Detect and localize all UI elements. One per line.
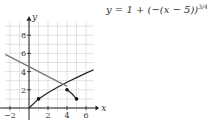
y-tick-label: 8 [21,31,26,40]
data-point [75,97,79,101]
equation-text: y = 1 + (−(x − 5)) [106,4,198,15]
y-tick-label: 4 [21,68,26,77]
data-point [37,97,41,101]
x-axis-label: x [101,103,106,113]
x-tick-label: 2 [45,111,50,120]
y-tick-label: 2 [21,86,26,95]
x-tick-label: 4 [64,111,69,120]
y-tick-label: 6 [21,49,26,58]
x-tick-label: 6 [83,111,88,120]
chart: −22462468xy [0,0,207,120]
y-axis-label: y [31,12,38,22]
x-axis-arrow-icon [96,106,100,111]
data-point [65,88,69,92]
x-tick-label: −2 [4,111,16,120]
y-axis-arrow-icon [27,16,32,21]
equation-exponent: 3/4 [198,3,207,10]
equation-label: y = 1 + (−(x − 5))3/4 [106,3,207,15]
series-curve [67,90,77,99]
